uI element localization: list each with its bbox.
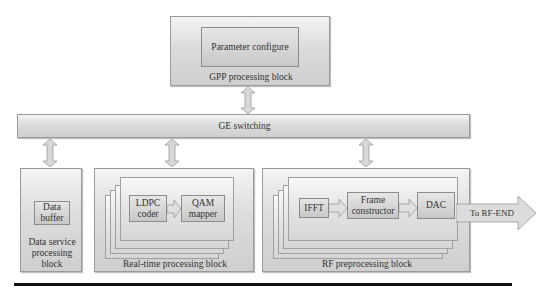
ge-switching-label: GE switching	[18, 121, 471, 132]
data-service-label-line2: processing	[21, 248, 83, 259]
double-arrow-icon	[165, 139, 179, 167]
frame-constructor-box: Frame constructor	[347, 192, 399, 219]
gpp-block-label: GPP processing block	[171, 72, 331, 83]
realtime-block-label: Real-time processing block	[95, 259, 255, 270]
frame-constructor-line2: constructor	[352, 206, 395, 217]
data-service-label-line3: block	[21, 259, 83, 270]
parameter-configure-box: Parameter configure	[201, 27, 299, 67]
data-service-label-line1: Data service	[21, 237, 83, 248]
right-arrow-icon	[399, 199, 417, 217]
right-arrow-icon	[167, 200, 181, 218]
double-arrow-icon	[241, 87, 255, 114]
ifft-box: IFFT	[299, 198, 329, 218]
ldpc-coder-box: LDPC coder	[129, 195, 167, 222]
qam-mapper-box: QAM mapper	[181, 195, 225, 222]
data-buffer-line1: Data	[43, 202, 61, 213]
realtime-processing-block: LDPC coder QAM mapper Real-time processi…	[94, 168, 254, 272]
stack-layer: IFFT Frame constructor DAC	[288, 177, 458, 241]
dac-box: DAC	[417, 192, 455, 219]
data-buffer-line2: buffer	[40, 213, 63, 224]
gpp-processing-block: Parameter configure GPP processing block	[170, 16, 330, 86]
dac-label: DAC	[426, 200, 446, 211]
ifft-label: IFFT	[304, 203, 324, 214]
data-service-label: Data service processing block	[21, 237, 83, 270]
stack-layer: LDPC coder QAM mapper	[120, 177, 234, 241]
double-arrow-icon	[359, 139, 373, 167]
qam-mapper-line2: mapper	[189, 209, 218, 220]
data-service-processing-block: Data buffer Data service processing bloc…	[20, 168, 82, 272]
data-buffer-box: Data buffer	[34, 201, 70, 225]
parameter-configure-label: Parameter configure	[211, 42, 288, 53]
frame-constructor-line1: Frame	[361, 195, 385, 206]
rf-preprocessing-block: IFFT Frame constructor DAC RF preprocess…	[262, 168, 470, 272]
ge-switching-bar: GE switching	[17, 114, 470, 138]
double-arrow-icon	[43, 139, 57, 167]
to-rf-end-label: To RF-END	[466, 208, 518, 219]
qam-mapper-line1: QAM	[192, 198, 214, 209]
right-arrow-icon	[329, 199, 347, 217]
ldpc-coder-line1: LDPC	[136, 198, 160, 209]
ldpc-coder-line2: coder	[137, 209, 158, 220]
rf-block-label: RF preprocessing block	[263, 259, 471, 270]
bottom-rule	[14, 283, 512, 286]
